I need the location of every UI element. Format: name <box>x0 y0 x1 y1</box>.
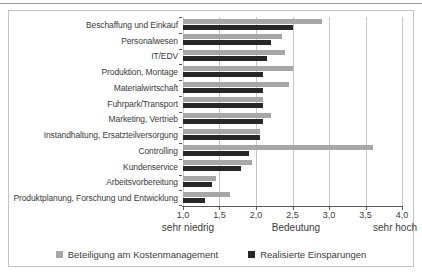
legend-item: Realisierte Einsparungen <box>248 249 366 260</box>
gridline <box>329 17 330 206</box>
category-label: Fuhrpark/Transport <box>11 96 178 112</box>
bar-beteiligung <box>183 160 252 165</box>
bar-einsparungen <box>183 72 263 77</box>
legend-label: Realisierte Einsparungen <box>260 249 366 260</box>
x-tick-label: 3,0 <box>323 210 336 220</box>
gridline <box>402 17 403 206</box>
bar-einsparungen <box>183 25 293 30</box>
bar-beteiligung <box>183 66 293 71</box>
x-axis-tick-labels: 1,01,52,02,53,03,54,0 <box>183 210 402 222</box>
category-tick-mark <box>179 190 182 191</box>
x-axis-caption-row: sehr niedrig Bedeutung sehr hoch <box>9 222 413 236</box>
bar-beteiligung <box>183 19 322 24</box>
bar-einsparungen <box>183 40 271 45</box>
x-axis-left-label: sehr niedrig <box>162 222 214 233</box>
category-tick-mark <box>179 127 182 128</box>
bar-einsparungen <box>183 103 263 108</box>
x-tick-label: 2,0 <box>250 210 263 220</box>
x-tick-label: 1,5 <box>213 210 226 220</box>
legend-swatch-icon <box>248 251 255 258</box>
gridline <box>219 17 220 206</box>
category-tick-mark <box>179 64 182 65</box>
category-label: Personalwesen <box>11 33 178 49</box>
category-label: Instandhaltung, Ersatzteilversorgung <box>11 127 178 143</box>
category-label: Materialwirtschaft <box>11 80 178 96</box>
category-tick-mark <box>179 143 182 144</box>
bar-einsparungen <box>183 198 205 203</box>
x-tick-label: 3,5 <box>359 210 372 220</box>
x-axis-title: Bedeutung <box>272 222 320 233</box>
bar-beteiligung <box>183 82 289 87</box>
x-tick-label: 2,5 <box>286 210 299 220</box>
category-tick-mark <box>179 17 182 18</box>
chart-page: Beschaffung und EinkaufPersonalwesenIT/E… <box>0 0 422 277</box>
bar-einsparungen <box>183 182 212 187</box>
category-tick-mark <box>179 175 182 176</box>
bar-einsparungen <box>183 56 267 61</box>
legend: Beteiligung am KostenmanagementRealisier… <box>9 246 413 262</box>
category-axis-labels: Beschaffung und EinkaufPersonalwesenIT/E… <box>11 17 178 206</box>
bar-beteiligung <box>183 113 271 118</box>
category-label: Arbeitsvorbereitung <box>11 175 178 191</box>
chart-frame: Beschaffung und EinkaufPersonalwesenIT/E… <box>8 10 414 267</box>
legend-item: Beteiligung am Kostenmanagement <box>56 249 219 260</box>
bar-einsparungen <box>183 88 263 93</box>
bar-einsparungen <box>183 166 241 171</box>
bar-beteiligung <box>183 129 260 134</box>
category-label: Marketing, Vertrieb <box>11 112 178 128</box>
bar-beteiligung <box>183 192 230 197</box>
x-tick-label: 1,0 <box>177 210 190 220</box>
legend-swatch-icon <box>56 251 63 258</box>
category-label: Produktplanung, Forschung und Entwicklun… <box>11 190 178 206</box>
bar-einsparungen <box>183 151 249 156</box>
category-tick-mark <box>179 112 182 113</box>
category-label: Produktion, Montage <box>11 64 178 80</box>
x-axis-right-label: sehr hoch <box>373 222 417 233</box>
category-label: Beschaffung und Einkauf <box>11 17 178 33</box>
top-rule <box>0 3 422 4</box>
category-label: IT/EDV <box>11 49 178 65</box>
bar-beteiligung <box>183 176 216 181</box>
bar-einsparungen <box>183 119 263 124</box>
category-tick-mark <box>179 159 182 160</box>
category-label: Controlling <box>11 143 178 159</box>
plot-area <box>183 17 402 206</box>
legend-label: Beteiligung am Kostenmanagement <box>68 249 219 260</box>
bar-einsparungen <box>183 135 260 140</box>
bar-beteiligung <box>183 97 263 102</box>
bar-beteiligung <box>183 145 373 150</box>
gridline <box>366 17 367 206</box>
bar-beteiligung <box>183 34 282 39</box>
category-tick-mark <box>179 33 182 34</box>
category-tick-mark <box>179 49 182 50</box>
category-tick-mark <box>179 205 182 206</box>
category-tick-mark <box>179 96 182 97</box>
gridline <box>256 17 257 206</box>
category-tick-mark <box>179 80 182 81</box>
gridline <box>293 17 294 206</box>
category-label: Kundenservice <box>11 159 178 175</box>
bar-beteiligung <box>183 50 285 55</box>
x-tick-label: 4,0 <box>396 210 409 220</box>
